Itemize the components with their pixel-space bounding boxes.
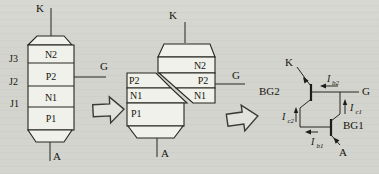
anode-label: A <box>161 147 169 159</box>
ib1-symbol: I <box>310 136 315 147</box>
ib2-subscript: b2 <box>332 79 340 87</box>
cathode-label: K <box>285 56 293 68</box>
ib2-arrow-icon <box>320 84 326 89</box>
bg2-label: BG2 <box>259 85 280 97</box>
junction-j3-label: J3 <box>9 53 18 64</box>
anode-label: A <box>339 146 347 158</box>
layer-n2-label: N2 <box>45 49 57 60</box>
bg2-collector-lead <box>300 100 310 108</box>
bg1-collector-lead <box>331 114 340 121</box>
block-arrow-icon <box>225 103 259 133</box>
figure-canvas: K N2 P2 N1 P1 J3 J2 J1 G A K N2 P2 N1 G <box>0 0 379 174</box>
lower-p1-label: P1 <box>131 108 142 119</box>
layer-n1-label: N1 <box>45 92 57 103</box>
ic2-arrow-icon <box>294 107 298 113</box>
gate-label: G <box>362 85 370 97</box>
gate-label: G <box>100 60 108 72</box>
upper-p2-label: P2 <box>198 75 209 86</box>
junction-j1-label: J1 <box>10 98 19 109</box>
cathode-label: K <box>169 9 177 21</box>
ic2-subscript: c2 <box>288 117 295 125</box>
transform-arrow-1 <box>92 96 124 124</box>
ib1-arrow-icon <box>305 130 311 135</box>
block-arrow-icon <box>92 96 124 124</box>
upper-n2-label: N2 <box>194 60 206 71</box>
cathode-contact-cap <box>28 36 72 45</box>
gate-label: G <box>232 69 240 81</box>
ic1-subscript: c1 <box>356 108 363 116</box>
upper-n1-label: N1 <box>194 90 206 101</box>
anode-label: A <box>53 150 61 162</box>
transform-arrow-2 <box>225 103 259 133</box>
lower-p2-label: P2 <box>129 75 140 86</box>
thyristor-figure: K N2 P2 N1 P1 J3 J2 J1 G A K N2 P2 N1 G <box>0 0 379 174</box>
ic2-symbol: I <box>281 111 286 122</box>
layer-p1-label: P1 <box>46 113 57 124</box>
bg2-emitter-lead <box>297 67 310 85</box>
ic1-symbol: I <box>349 102 354 113</box>
bg1-label: BG1 <box>343 119 364 131</box>
cathode-label: K <box>36 2 44 14</box>
anode-contact-cap <box>28 130 72 142</box>
ic1-arrow-icon <box>343 99 347 105</box>
upper-n2-block <box>158 57 215 73</box>
lower-n1-label: N1 <box>130 90 142 101</box>
two-transistor-circuit: K BG2 G I b2 I c2 I b1 BG1 <box>259 56 370 158</box>
cathode-contact-cap <box>158 44 215 57</box>
pnpn-stack-diagram: K N2 P2 N1 P1 J3 J2 J1 G A <box>9 2 108 162</box>
sheared-stack-diagram: K N2 P2 N1 G P2 N1 P1 A <box>127 9 245 159</box>
layer-p2-label: P2 <box>46 71 57 82</box>
ib1-subscript: b1 <box>317 142 324 150</box>
junction-j2-label: J2 <box>9 76 18 87</box>
anode-contact-cap <box>128 126 183 138</box>
ib2-symbol: I <box>326 73 331 84</box>
